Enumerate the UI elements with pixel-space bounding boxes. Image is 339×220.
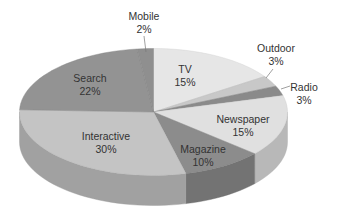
pie-chart: TV 15% Outdoor 3% Radio 3% Newspaper 15%… xyxy=(0,0,339,220)
label-magazine-name: Magazine xyxy=(180,143,226,155)
label-search-value: 22% xyxy=(79,85,100,97)
label-tv-value: 15% xyxy=(174,76,195,88)
label-mobile-value: 2% xyxy=(136,23,151,35)
pie-slices xyxy=(20,49,288,176)
label-outdoor-value: 3% xyxy=(268,55,283,67)
label-interactive-name: Interactive xyxy=(82,130,131,142)
label-outdoor-name: Outdoor xyxy=(257,42,295,54)
label-radio-value: 3% xyxy=(296,94,311,106)
label-newspaper-value: 15% xyxy=(232,126,253,138)
label-search-name: Search xyxy=(73,72,106,84)
label-newspaper-name: Newspaper xyxy=(216,113,270,125)
label-radio-name: Radio xyxy=(290,81,318,93)
label-interactive-value: 30% xyxy=(95,143,116,155)
label-magazine-value: 10% xyxy=(192,156,213,168)
label-tv-name: TV xyxy=(178,63,191,75)
outdoor-leader-line xyxy=(266,69,273,78)
label-mobile-name: Mobile xyxy=(129,10,160,22)
radio-leader-line xyxy=(281,86,290,89)
